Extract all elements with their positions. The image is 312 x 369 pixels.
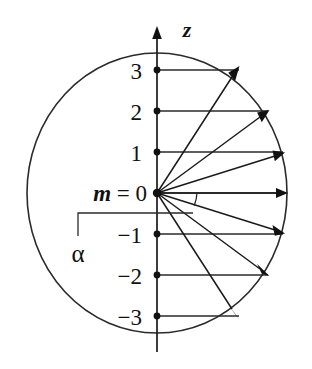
diagram-canvas: z 3 2 1 m = 0 −1 −2 −3 α bbox=[0, 0, 312, 369]
alpha-arc-icon bbox=[194, 193, 197, 206]
alpha-label: α bbox=[71, 240, 84, 267]
vectors-group bbox=[157, 66, 288, 320]
m-symbol: m bbox=[93, 181, 111, 206]
vector-m2 bbox=[157, 117, 260, 193]
tick-dot-mm3 bbox=[154, 313, 161, 320]
vector-mm1 bbox=[157, 193, 275, 230]
tick-label-m2: 2 bbox=[131, 100, 143, 125]
vector-mm3 bbox=[157, 193, 232, 309]
tick-dot-m1 bbox=[154, 149, 161, 156]
tick-dot-m2 bbox=[154, 108, 161, 115]
tick-dot-m3 bbox=[154, 67, 161, 74]
tick-label-m1: 1 bbox=[131, 141, 143, 166]
z-axis-arrowhead-icon bbox=[152, 26, 162, 39]
vector-m3 bbox=[157, 77, 232, 193]
tick-label-mm3: −3 bbox=[118, 305, 142, 330]
vector-m1 bbox=[157, 156, 275, 193]
vector-mm2 bbox=[157, 193, 260, 269]
m-value: 0 bbox=[136, 181, 148, 206]
tick-dot-mm2 bbox=[154, 272, 161, 279]
tick-label-mm1: −1 bbox=[118, 223, 142, 248]
z-axis-label: z bbox=[182, 17, 192, 42]
tick-dot-m0 bbox=[153, 189, 161, 197]
m-equals: = bbox=[111, 181, 135, 206]
origin-m-label: m = 0 bbox=[93, 181, 147, 206]
tick-label-m3: 3 bbox=[131, 59, 143, 84]
tick-dot-mm1 bbox=[154, 231, 161, 238]
tick-label-mm2: −2 bbox=[118, 264, 142, 289]
angular-momentum-figure: z 3 2 1 m = 0 −1 −2 −3 α bbox=[0, 0, 312, 369]
